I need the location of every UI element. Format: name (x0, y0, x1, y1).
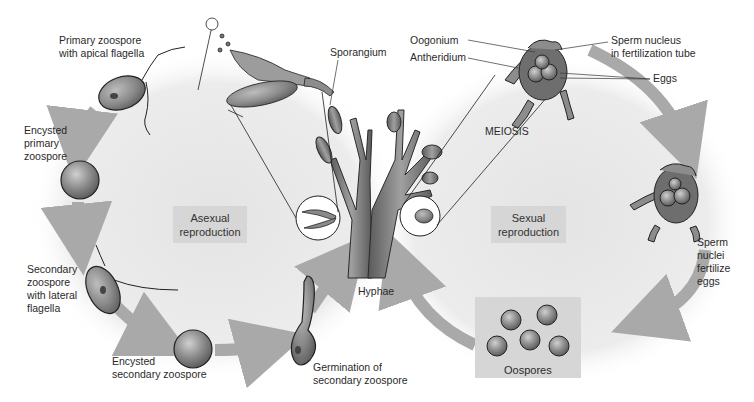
oospore (520, 330, 540, 350)
label-sperm-nuclei-fertilize: Sperm nuclei fertilize eggs (697, 236, 730, 288)
asexual-reproduction-label: Asexual reproduction (173, 206, 247, 243)
label-eggs: Eggs (653, 72, 677, 85)
oospore (501, 310, 521, 330)
encysted-primary-zoospore (61, 161, 99, 199)
oomycete-life-cycle-diagram: Asexual reproduction Sexual reproduction… (0, 0, 754, 402)
label-germination: Germination of secondary zoospore (313, 361, 408, 387)
oospore (487, 336, 507, 356)
label-secondary-zoospore: Secondary zoospore with lateral flagella (27, 263, 77, 315)
label-oogonium: Oogonium (410, 34, 458, 47)
label-sporangium: Sporangium (330, 46, 387, 59)
sexual-reproduction-label: Sexual reproduction (491, 206, 566, 243)
label-meiosis: MEIOSIS (485, 125, 529, 138)
label-encysted-secondary-zoospore: Encysted secondary zoospore (112, 355, 207, 381)
label-encysted-primary-zoospore: Encysted primary zoospore (24, 124, 67, 163)
label-sperm-nucleus: Sperm nucleus in fertilization tube (611, 34, 696, 60)
label-antheridium: Antheridium (410, 51, 466, 64)
oospore (549, 336, 569, 356)
arrow-encysted-to-secondary (78, 202, 80, 240)
label-primary-zoospore: Primary zoospore with apical flagella (59, 34, 144, 60)
oospore (537, 305, 557, 325)
label-hyphae: Hyphae (358, 285, 394, 298)
arrow-encysted-to-germination (215, 344, 272, 350)
label-oospores: Oospores (504, 364, 552, 377)
